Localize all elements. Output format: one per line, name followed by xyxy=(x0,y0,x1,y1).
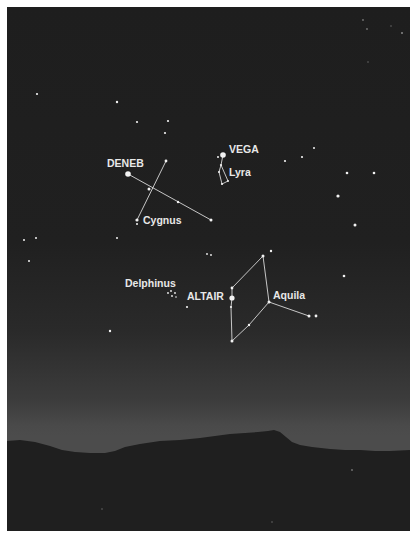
star-chart-frame: DENEB VEGA Lyra Cygnus Delphinus ALTAIR … xyxy=(7,7,410,531)
altair-star xyxy=(229,295,234,300)
label-cygnus: Cygnus xyxy=(143,214,182,226)
label-deneb: DENEB xyxy=(107,157,144,169)
deneb-star xyxy=(125,171,131,177)
cygnus-lines xyxy=(128,161,211,220)
night-sky: DENEB VEGA Lyra Cygnus Delphinus ALTAIR … xyxy=(7,7,410,531)
mountain-silhouette xyxy=(7,430,410,531)
label-delphinus: Delphinus xyxy=(125,277,176,289)
lyra-lines xyxy=(219,155,228,184)
vega-star xyxy=(220,152,226,158)
label-altair: ALTAIR xyxy=(187,290,224,302)
label-lyra: Lyra xyxy=(229,166,251,178)
label-vega: VEGA xyxy=(229,143,259,155)
label-aquila: Aquila xyxy=(273,289,305,301)
